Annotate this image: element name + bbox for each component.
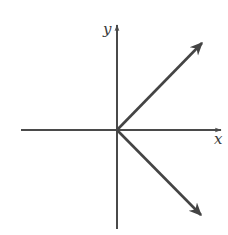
vector-lower-right	[117, 130, 201, 215]
coordinate-diagram: y x	[0, 0, 228, 235]
x-axis-label: x	[214, 130, 223, 148]
vector-upper-right	[117, 43, 202, 130]
y-axis-label: y	[102, 20, 112, 38]
